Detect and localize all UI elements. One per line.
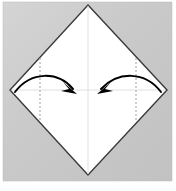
origami-diagram bbox=[0, 0, 176, 191]
origami-figure-svg bbox=[0, 0, 176, 191]
